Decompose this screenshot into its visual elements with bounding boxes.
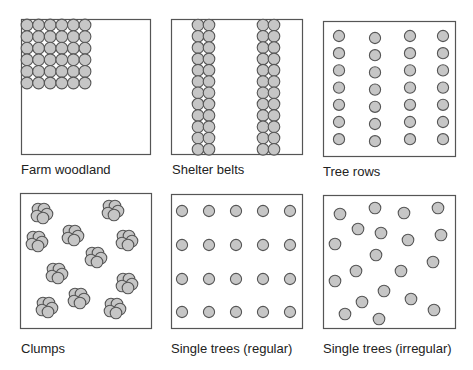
tree-icon <box>284 273 295 284</box>
tree-icon <box>203 53 215 65</box>
tree-icon <box>432 202 444 214</box>
tree-icon <box>268 110 280 122</box>
tree-icon <box>176 205 187 216</box>
clump <box>104 298 126 319</box>
tree-icon <box>37 212 49 224</box>
tree-icon <box>257 53 269 65</box>
tree-icon <box>257 64 269 76</box>
tree-icon <box>52 272 64 284</box>
tree-icon <box>192 53 204 65</box>
panel-frame <box>172 20 303 155</box>
tree-icon <box>203 98 215 110</box>
tree-icon <box>203 306 214 317</box>
panel-single-trees-irregular <box>324 196 456 329</box>
tree-icon <box>230 205 241 216</box>
tree-icon <box>21 77 33 89</box>
tree-icon <box>42 306 54 318</box>
tree-icon <box>329 238 341 250</box>
tree-icon <box>33 77 45 89</box>
tree-icon <box>203 239 214 250</box>
tree-icon <box>257 42 269 54</box>
tree-icon <box>56 31 68 43</box>
label-single-trees-irregular: Single trees (irregular) <box>323 341 452 356</box>
tree-icon <box>21 31 33 43</box>
clump <box>46 263 68 284</box>
tree-icon <box>203 19 215 31</box>
tree-icon <box>203 87 215 99</box>
tree-icon <box>333 99 344 110</box>
tree-icon <box>268 132 280 144</box>
tree-icon <box>56 54 68 66</box>
tree-icon <box>33 54 45 66</box>
tree-icon <box>44 42 56 54</box>
tree-icon <box>91 256 103 268</box>
tree-icon <box>192 19 204 31</box>
tree-icon <box>257 87 269 99</box>
tree-icon <box>176 306 187 317</box>
tree-icon <box>268 19 280 31</box>
tree-icon <box>437 99 448 110</box>
tree-icon <box>333 116 344 127</box>
tree-icon <box>203 31 215 43</box>
clump <box>116 230 138 251</box>
tree-icon <box>284 306 295 317</box>
tree-icon <box>378 285 390 297</box>
clump <box>36 297 58 318</box>
tree-icon <box>203 205 214 216</box>
tree-icon <box>404 99 415 110</box>
clump <box>85 247 107 268</box>
tree-icon <box>334 208 346 220</box>
tree-icon <box>437 48 448 59</box>
tree-icon <box>108 209 120 221</box>
tree-icon <box>257 239 268 250</box>
tree-icon <box>333 65 344 76</box>
tree-icon <box>192 144 204 156</box>
tree-icon <box>339 308 351 320</box>
tree-icon <box>398 207 410 219</box>
tree-icon <box>230 306 241 317</box>
tree-icon <box>257 273 268 284</box>
tree-icon <box>369 101 380 112</box>
panel-farm-woodland <box>21 19 150 154</box>
tree-icon <box>21 66 33 78</box>
tree-icon <box>369 136 380 147</box>
tree-icon <box>257 144 269 156</box>
tree-icon <box>192 87 204 99</box>
tree-icon <box>203 42 215 54</box>
tree-icon <box>44 66 56 78</box>
tree-icon <box>356 296 368 308</box>
clump <box>102 200 124 221</box>
tree-icon <box>203 132 215 144</box>
panel-single-trees-regular <box>172 195 303 329</box>
tree-icon <box>230 273 241 284</box>
tree-icon <box>268 98 280 110</box>
tree-icon <box>56 42 68 54</box>
tree-icon <box>68 31 80 43</box>
tree-icon <box>404 65 415 76</box>
tree-icon <box>257 76 269 88</box>
tree-icon <box>68 234 80 246</box>
tree-icon <box>352 223 364 235</box>
tree-icon <box>68 19 80 31</box>
tree-icon <box>257 132 269 144</box>
tree-icon <box>110 307 122 319</box>
tree-icon <box>68 66 80 78</box>
tree-icon <box>395 265 407 277</box>
tree-icon <box>56 66 68 78</box>
tree-icon <box>268 87 280 99</box>
tree-icon <box>192 132 204 144</box>
tree-icon <box>79 66 91 78</box>
tree-icon <box>68 54 80 66</box>
tree-icon <box>369 67 380 78</box>
tree-icon <box>122 282 134 294</box>
tree-icon <box>203 273 214 284</box>
tree-icon <box>33 31 45 43</box>
tree-icon <box>373 313 385 325</box>
tree-icon <box>192 110 204 122</box>
tree-icon <box>68 42 80 54</box>
tree-icon <box>268 121 280 133</box>
tree-icon <box>33 66 45 78</box>
tree-icon <box>33 42 45 54</box>
tree-icon <box>176 273 187 284</box>
tree-icon <box>257 121 269 133</box>
